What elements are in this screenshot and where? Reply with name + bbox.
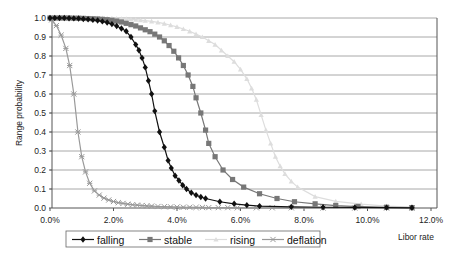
legend-label: rising [230, 234, 255, 246]
y-tick-label: 0.3 [34, 146, 46, 156]
y-tick-label: 0.0 [34, 203, 46, 213]
x-tick-label: 6.0% [231, 215, 251, 225]
range-probability-chart: 0.00.10.20.30.40.50.60.70.80.91.0 0.0%2.… [0, 0, 464, 261]
y-tick-label: 0.9 [34, 32, 46, 42]
y-tick-label: 0.8 [34, 51, 46, 61]
x-tick-label: 12.0% [419, 215, 444, 225]
legend: fallingstablerisingdeflation [66, 231, 327, 247]
y-axis-title: Range probability [14, 79, 24, 146]
y-axis-ticks: 0.00.10.20.30.40.50.60.70.80.91.0 [34, 13, 52, 213]
gridlines [50, 18, 437, 189]
square-marker-icon [147, 237, 152, 242]
legend-label: deflation [287, 234, 327, 246]
y-tick-label: 0.2 [34, 165, 46, 175]
x-tick-label: 2.0% [104, 215, 124, 225]
x-axis-title: Libor rate [398, 232, 434, 242]
y-tick-label: 0.4 [34, 127, 46, 137]
x-tick-label: 0.0% [40, 215, 60, 225]
x-tick-label: 4.0% [167, 215, 187, 225]
legend-label: falling [97, 234, 125, 246]
x-tick-label: 10.0% [355, 215, 380, 225]
y-tick-label: 0.5 [34, 108, 46, 118]
legend-label: stable [164, 234, 192, 246]
y-tick-label: 0.1 [34, 184, 46, 194]
y-tick-label: 0.7 [34, 70, 46, 80]
y-tick-label: 1.0 [34, 13, 46, 23]
x-tick-label: 8.0% [294, 215, 314, 225]
x-axis-ticks: 0.0%2.0%4.0%6.0%8.0%10.0%12.0% [40, 208, 443, 225]
y-tick-label: 0.6 [34, 89, 46, 99]
